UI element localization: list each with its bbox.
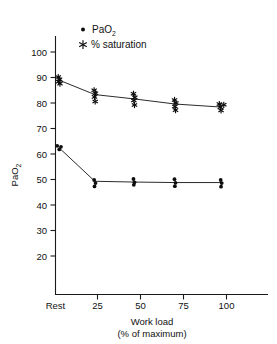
x-axis-tick-labels: Rest 25 50 75 100 xyxy=(46,300,235,311)
legend-label-pao2: PaO2 xyxy=(92,24,116,37)
pao2-work-load-scatter-chart: PaO2 % saturation 100 90 xyxy=(0,0,277,344)
data-point-marker xyxy=(132,183,136,187)
y-tick-label: 50 xyxy=(36,174,47,185)
y-tick-label: 60 xyxy=(36,149,47,160)
y-axis-title-sub: 2 xyxy=(15,163,22,167)
y-tick-label: 80 xyxy=(36,98,47,109)
data-point-marker xyxy=(55,144,59,148)
chart-legend: PaO2 % saturation xyxy=(79,24,146,50)
series-trend-line xyxy=(59,148,221,183)
data-point-marker xyxy=(220,181,224,185)
legend-label-saturation: % saturation xyxy=(91,39,147,50)
y-axis-ticks xyxy=(51,52,56,256)
legend-label-pao2-text: PaO xyxy=(92,24,112,35)
series--saturation xyxy=(56,74,227,114)
y-axis-tick-labels: 100 90 80 70 60 50 40 30 20 xyxy=(31,47,47,262)
y-axis-title-main: PaO xyxy=(9,167,20,186)
x-axis-title-line2: (% of maximum) xyxy=(117,328,186,339)
x-tick-label: 50 xyxy=(135,300,146,311)
data-point-marker xyxy=(174,181,178,185)
legend-dot-marker-icon xyxy=(81,28,85,32)
y-tick-label: 20 xyxy=(36,251,47,262)
data-point-marker xyxy=(219,185,223,189)
data-point-marker xyxy=(94,181,98,185)
series-pao2 xyxy=(55,144,223,189)
x-tick-label: 25 xyxy=(92,300,103,311)
plot-data-layer xyxy=(55,74,226,189)
data-point-marker xyxy=(57,148,61,152)
legend-asterisk-marker-icon xyxy=(79,40,87,49)
y-tick-label: 40 xyxy=(36,200,47,211)
data-point-marker xyxy=(132,102,137,108)
x-axis-ticks xyxy=(98,295,227,300)
data-point-marker xyxy=(173,177,177,181)
y-tick-label: 70 xyxy=(36,123,47,134)
legend-label-pao2-sub: 2 xyxy=(112,30,116,37)
data-point-marker xyxy=(92,98,97,104)
series-trend-line xyxy=(59,80,221,107)
data-point-marker xyxy=(173,184,177,188)
y-tick-label: 30 xyxy=(36,225,47,236)
data-point-marker xyxy=(132,177,136,181)
chart-figure: PaO2 % saturation 100 90 xyxy=(0,0,277,344)
y-axis-title: PaO2 xyxy=(9,163,22,186)
x-tick-label-rest: Rest xyxy=(46,300,66,311)
data-point-marker xyxy=(93,184,97,188)
x-tick-label: 75 xyxy=(178,300,189,311)
x-axis-title-line1: Work load xyxy=(131,316,174,327)
x-tick-label: 100 xyxy=(219,300,235,311)
y-tick-label: 100 xyxy=(31,47,47,58)
y-tick-label: 90 xyxy=(36,72,47,83)
